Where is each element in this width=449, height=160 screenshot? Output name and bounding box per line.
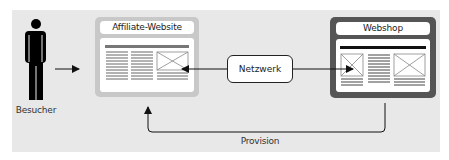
- affiliate-page-content: [105, 45, 189, 79]
- provision-arrow: [148, 103, 385, 132]
- diagram-lines: [0, 0, 449, 160]
- webshop-page-content: [340, 46, 426, 85]
- network-label: Netzwerk: [239, 64, 281, 74]
- network-node: Netzwerk: [227, 55, 293, 83]
- provision-label: Provision: [235, 136, 285, 146]
